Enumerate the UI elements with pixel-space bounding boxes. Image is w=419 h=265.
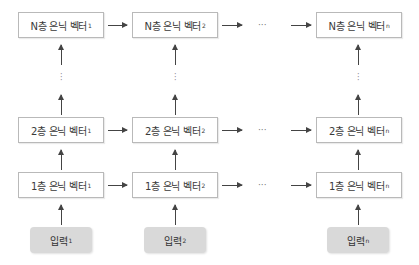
node-label: 1층 은닉 벡터	[31, 178, 86, 193]
arrow-right-icon	[291, 25, 311, 26]
vertical-ellipsis: ···	[174, 73, 176, 85]
horizontal-ellipsis: ···	[258, 180, 267, 190]
node-layer-n-step-1: N층 은닉 벡터1	[18, 12, 104, 38]
arrow-right-icon	[291, 185, 311, 186]
input-subscript: 1	[69, 237, 73, 244]
arrow-right-icon	[222, 185, 242, 186]
arrow-up-icon	[175, 45, 176, 65]
node-layer-1-step-1: 1층 은닉 벡터1	[18, 172, 104, 198]
arrow-up-icon	[175, 205, 176, 225]
node-label: 2층 은닉 벡터	[31, 123, 86, 138]
node-layer-n-step-2: N층 은닉 벡터2	[132, 12, 218, 38]
arrow-right-icon	[222, 130, 242, 131]
arrow-right-icon	[108, 25, 127, 26]
input-step-2: 입력2	[144, 227, 206, 253]
node-label: 2층 은닉 벡터	[145, 123, 200, 138]
arrow-right-icon	[108, 185, 127, 186]
node-label: 2층 은닉 벡터	[329, 123, 384, 138]
arrow-right-icon	[108, 130, 127, 131]
node-subscript: 1	[87, 127, 91, 134]
node-subscript: 2	[202, 22, 206, 29]
node-layer-2-step-n: 2층 은닉 벡터n	[316, 117, 402, 143]
node-subscript: 1	[87, 182, 91, 189]
arrow-up-icon	[61, 205, 62, 225]
vertical-ellipsis: ···	[60, 73, 62, 85]
node-layer-2-step-1: 2층 은닉 벡터1	[18, 117, 104, 143]
arrow-up-icon	[61, 95, 62, 115]
arrow-right-icon	[291, 130, 311, 131]
arrow-up-icon	[358, 45, 359, 65]
node-layer-1-step-n: 1층 은닉 벡터n	[316, 172, 402, 198]
node-label: N층 은닉 벡터	[31, 18, 87, 33]
node-layer-n-step-n: N층 은닉 벡터n	[316, 12, 402, 38]
node-subscript: n	[385, 127, 389, 134]
input-subscript: n	[366, 237, 370, 244]
node-subscript: n	[385, 182, 389, 189]
node-subscript: 2	[201, 127, 205, 134]
node-label: 1층 은닉 벡터	[145, 178, 200, 193]
node-subscript: n	[386, 22, 390, 29]
arrow-up-icon	[61, 45, 62, 65]
arrow-up-icon	[61, 150, 62, 170]
vertical-ellipsis: ···	[357, 73, 359, 85]
arrow-up-icon	[358, 150, 359, 170]
input-label: 입력	[347, 233, 365, 248]
node-layer-1-step-2: 1층 은닉 벡터2	[132, 172, 218, 198]
arrow-up-icon	[175, 150, 176, 170]
node-label: N층 은닉 벡터	[329, 18, 385, 33]
node-label: 1층 은닉 벡터	[329, 178, 384, 193]
arrow-right-icon	[222, 25, 242, 26]
horizontal-ellipsis: ···	[258, 20, 267, 30]
node-subscript: 2	[201, 182, 205, 189]
input-step-1: 입력1	[30, 227, 92, 253]
horizontal-ellipsis: ···	[258, 125, 267, 135]
node-layer-2-step-2: 2층 은닉 벡터2	[132, 117, 218, 143]
arrow-up-icon	[358, 205, 359, 225]
arrow-up-icon	[175, 95, 176, 115]
arrow-up-icon	[358, 95, 359, 115]
node-subscript: 1	[88, 22, 92, 29]
input-step-n: 입력n	[327, 227, 389, 253]
input-subscript: 2	[183, 237, 187, 244]
input-label: 입력	[164, 233, 182, 248]
input-label: 입력	[50, 233, 68, 248]
node-label: N층 은닉 벡터	[145, 18, 201, 33]
